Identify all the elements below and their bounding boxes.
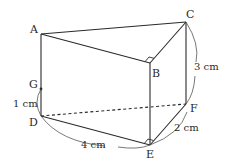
vertex-label-B: B — [152, 67, 160, 80]
dim-label-DE: 4 cm — [81, 139, 106, 150]
edge-AC — [41, 22, 186, 34]
vertex-label-C: C — [186, 8, 194, 21]
dim-label-CF: 3 cm — [194, 61, 219, 72]
edge-AB — [41, 34, 150, 63]
vertex-label-F: F — [190, 102, 198, 115]
edge-DF-hidden — [41, 104, 186, 116]
edge-BC — [150, 22, 186, 63]
vertex-label-E: E — [146, 148, 154, 161]
dim-arc-CF — [186, 22, 197, 62]
dim-label-EF: 2 cm — [174, 122, 199, 133]
vertex-label-A: A — [29, 23, 39, 36]
vertex-label-G: G — [29, 78, 38, 91]
dim-label-DG: 1 cm — [13, 98, 38, 109]
prism-diagram: A B C D E F G 1 cm 4 cm 2 cm 3 cm — [0, 0, 227, 165]
vertex-label-D: D — [29, 116, 38, 129]
dim-arc-CF-2 — [186, 76, 195, 104]
